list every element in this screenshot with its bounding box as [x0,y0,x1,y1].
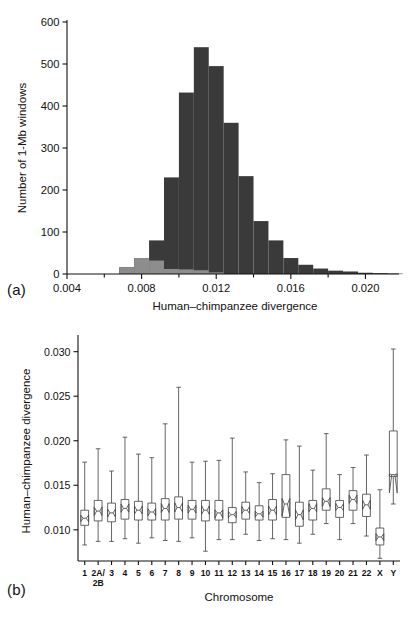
boxplot-box-1 [81,462,89,545]
histogram-bar [254,221,269,274]
box-outline [363,494,371,516]
box-outline [309,500,317,520]
box-outline [134,501,142,520]
boxplot-boxes [81,349,397,558]
box-outline [94,500,102,520]
box-outline [148,503,156,520]
chromosome-label: 18 [308,568,318,578]
y-tick-label-a: 200 [41,184,60,196]
y-tick-label-a: 500 [41,58,60,70]
histogram-bar [164,269,179,274]
histogram-bar [194,47,209,274]
chromosome-label: 17 [295,568,305,578]
chromosome-label: 2A/ [91,568,105,578]
histogram-bar [119,267,134,274]
chromosome-label: 20 [335,568,345,578]
chromosome-label: 12 [228,568,238,578]
boxplot-box-11 [215,460,223,539]
x-tick-label-a: 0.008 [128,282,156,294]
chromosome-label: 3 [109,568,114,578]
boxplot-box-6 [148,458,156,538]
figure-container: 01002003004005006000.0040.0080.0120.0160… [0,0,411,627]
boxplot-box-14 [255,483,263,541]
boxplot-box-5 [134,454,142,543]
histogram-bar [209,66,224,274]
boxplot-box-2A-2B [94,449,102,542]
y-tick-label-b: 0.015 [44,479,71,491]
histogram-bar [268,240,283,274]
histogram-bar [239,176,254,274]
box-outline [336,500,344,517]
x-tick-label-a: 0.020 [351,282,379,294]
box-outline [269,500,277,520]
y-tick-label-a: 100 [41,226,60,238]
box-outline [215,500,223,520]
panel-a-label: (a) [7,281,26,298]
chromosome-label: 15 [268,568,278,578]
histogram-bar [179,93,194,274]
boxplot-box-12 [228,438,236,540]
box-outline [376,528,384,545]
histogram-bar [164,177,179,274]
x-axis-title-a: Human–chimpanzee divergence [153,300,318,312]
chromosome-label: 9 [190,568,195,578]
histogram-series-autosomal [119,47,403,274]
boxplot-box-15 [269,474,277,539]
chromosome-label: 11 [214,568,223,578]
boxplot-box-8 [175,387,183,541]
chromosome-label: 2B [93,578,104,588]
histogram-bar [298,265,313,274]
y-tick-label-b: 0.030 [44,346,71,358]
histogram-svg: 01002003004005006000.0040.0080.0120.0160… [0,0,411,313]
box-outline [349,491,357,511]
boxplot-box-20 [336,475,344,540]
boxplot-box-18 [309,470,317,534]
chromosome-label: Y [390,568,396,578]
box-outline [188,500,196,519]
chromosome-label: 4 [123,568,128,578]
y-tick-label-b: 0.010 [44,524,71,536]
panel-a-histogram: 01002003004005006000.0040.0080.0120.0160… [0,0,411,313]
y-tick-label-b: 0.025 [44,390,71,402]
x-tick-label-a: 0.012 [202,282,230,294]
y-tick-label-a: 400 [41,100,60,112]
y-tick-label-a: 600 [41,16,60,28]
y-tick-label-b: 0.020 [44,435,71,447]
chromosome-label: 7 [163,568,168,578]
box-outline [295,502,303,526]
histogram-bar [149,261,164,274]
box-outline [282,475,290,518]
chromosome-label: 8 [176,568,181,578]
boxplot-box-3 [108,471,116,541]
boxplot-box-19 [322,434,330,524]
boxplot-box-21 [349,467,357,523]
histogram-bar [134,258,149,274]
chromosome-label: 5 [136,568,141,578]
box-outline [322,489,330,510]
histogram-bar [179,269,194,274]
chromosome-label: 16 [281,568,291,578]
box-outline [161,499,169,520]
y-axis-title-b: Human–chimpanzee divergence [20,369,32,534]
histogram-bars [119,47,403,274]
chromosome-label: 13 [241,568,251,578]
chromosome-label: 22 [362,568,372,578]
x-axis-title-b: Chromosome [204,591,273,603]
panel-b-boxplot: 0.0100.0150.0200.0250.03012A/2B345678910… [0,313,411,627]
x-tick-label-a: 0.004 [53,282,81,294]
box-outline [202,500,210,520]
y-tick-label-a: 300 [41,142,60,154]
box-outline [108,503,116,522]
boxplot-box-7 [161,424,169,541]
box-outline [121,500,129,520]
y-axis-title-a: Number of 1-Mb windows [16,83,28,214]
boxplot-box-17 [295,446,303,543]
chromosome-label: 1 [82,568,87,578]
boxplot-box-X [376,490,384,559]
box-outline [175,497,183,519]
histogram-bar [283,258,298,274]
box-outline [81,510,89,525]
chromosome-label: 14 [254,568,264,578]
box-outline [228,508,236,523]
boxplot-box-13 [242,472,250,534]
